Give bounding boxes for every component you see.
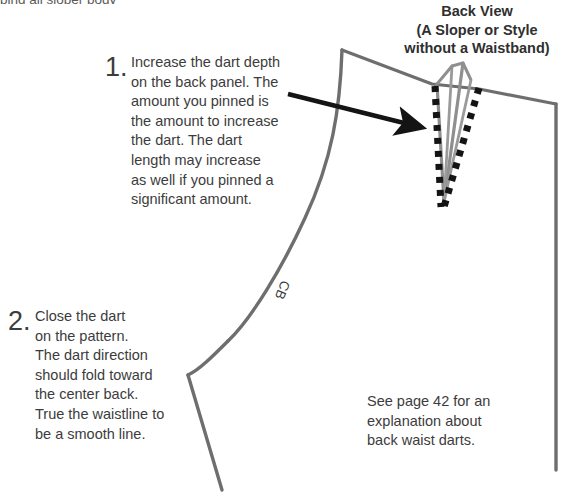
step-1-text: Increase the dart depth on the back pane… bbox=[131, 53, 311, 210]
dart-peak-apex bbox=[437, 63, 471, 84]
step-2-number: 2. bbox=[8, 308, 31, 335]
cropped-top-text: ping all sloper body bbox=[0, 0, 260, 4]
cross-reference-note: See page 42 for an explanation about bac… bbox=[367, 392, 532, 451]
diagram-title: Back View (A Sloper or Style without a W… bbox=[372, 2, 582, 58]
step-1-number: 1. bbox=[105, 54, 128, 81]
diagram-page: ping all sloper body Back View (A Sloper… bbox=[0, 0, 582, 493]
step-2-text: Close the dart on the pattern. The dart … bbox=[35, 307, 210, 444]
